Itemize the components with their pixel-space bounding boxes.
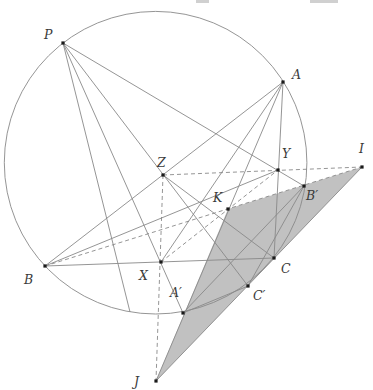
point-dot-A	[281, 80, 284, 83]
segment-chord-P-Aprime	[63, 43, 183, 313]
point-dot-Cp	[246, 284, 249, 287]
point-dot-Z	[161, 173, 164, 176]
point-dot-X	[159, 260, 162, 263]
geometry-figure-canvas: PABCXYZKA′B′C′IJ	[0, 0, 373, 390]
segment-medial-ZY-ext-I	[163, 167, 362, 175]
point-label-C: C	[281, 261, 291, 276]
segment-chord-P-Bprime	[63, 43, 304, 186]
point-dot-C	[272, 256, 275, 259]
point-dot-J	[154, 379, 157, 382]
point-label-K: K	[212, 190, 223, 205]
point-label-Ap: A′	[169, 285, 182, 300]
point-dot-Y	[276, 168, 279, 171]
point-label-Bp: B′	[305, 188, 318, 203]
point-label-J: J	[131, 374, 140, 389]
circle-geometry-diagram: PABCXYZKA′B′C′IJ	[0, 0, 373, 390]
segment-chord-P-Cprime	[63, 43, 248, 286]
point-dot-K	[226, 207, 229, 210]
point-label-A: A	[291, 67, 301, 82]
point-label-X: X	[138, 268, 149, 283]
cropped-text-artifact-1	[310, 0, 338, 3]
cropped-text-artifact-0	[196, 0, 209, 3]
point-dot-I	[360, 165, 363, 168]
point-label-Z: Z	[156, 155, 166, 170]
point-label-P: P	[43, 27, 53, 42]
point-dot-B	[43, 264, 46, 267]
segment-chord-P-arc	[63, 43, 130, 312]
point-label-I: I	[358, 141, 365, 156]
point-dot-Ap	[181, 311, 184, 314]
point-label-B: B	[23, 272, 33, 287]
point-label-Y: Y	[282, 146, 292, 161]
point-dot-P	[61, 41, 64, 44]
segment-medial-ZX-ext-J	[156, 175, 163, 381]
point-label-Cp: C′	[253, 288, 266, 303]
